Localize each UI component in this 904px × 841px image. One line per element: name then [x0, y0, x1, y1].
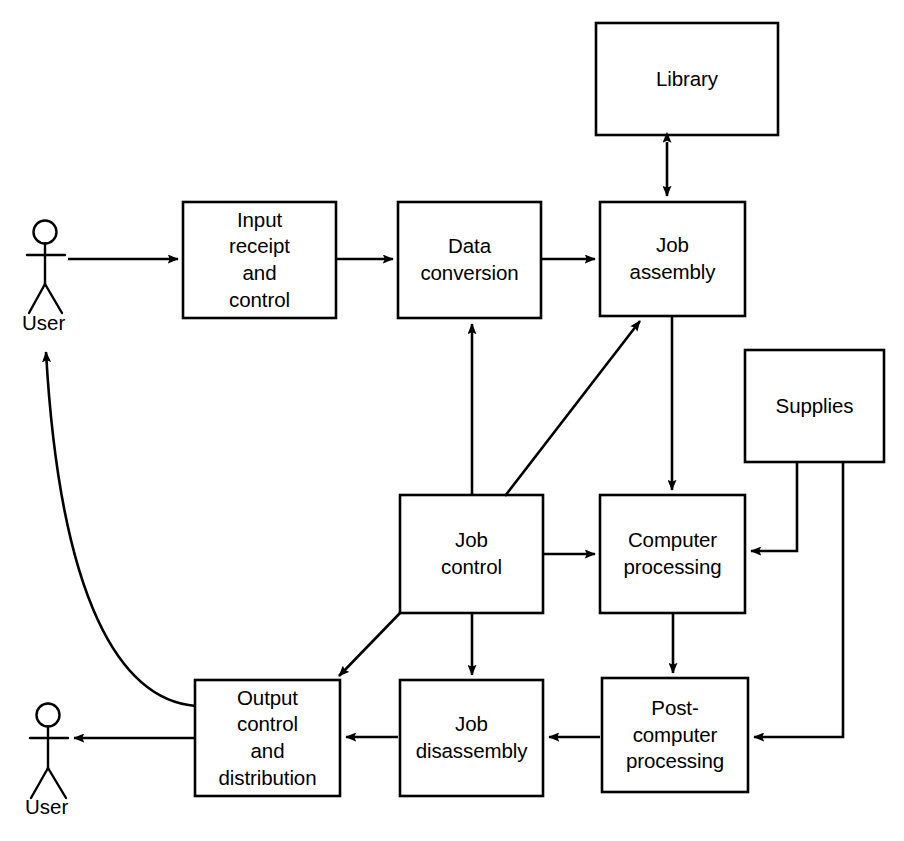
diagram-canvas: [0, 0, 904, 841]
actor-user-bottom-hit[interactable]: [20, 700, 78, 812]
connector-output-to-user-top: [46, 352, 196, 706]
box-job-assembly[interactable]: [600, 202, 745, 316]
box-input-receipt[interactable]: [183, 202, 336, 318]
box-job-disassembly[interactable]: [400, 680, 543, 796]
flowchart-diagram: Library Input receipt and control Data c…: [0, 0, 904, 841]
box-job-control[interactable]: [400, 495, 543, 613]
connector-control-to-output: [339, 612, 401, 676]
actor-user-top-hit[interactable]: [18, 218, 74, 328]
box-post-computer-processing[interactable]: [602, 678, 748, 792]
box-library[interactable]: [596, 23, 778, 135]
box-supplies[interactable]: [745, 350, 884, 462]
connector-supplies-to-computer: [751, 462, 797, 551]
connector-supplies-to-post: [754, 462, 843, 737]
box-computer-processing[interactable]: [600, 495, 745, 613]
connector-control-to-assembly: [505, 321, 640, 496]
box-output-control[interactable]: [195, 680, 340, 796]
box-data-conversion[interactable]: [398, 202, 541, 318]
